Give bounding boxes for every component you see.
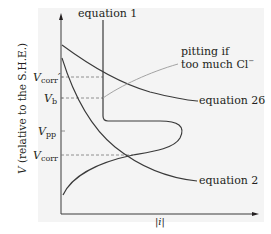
plot-svg bbox=[0, 0, 271, 234]
vcorr-subscript: corr bbox=[41, 154, 58, 163]
vb-label: Vb bbox=[44, 93, 57, 106]
vcorr-symbol: V bbox=[33, 149, 41, 162]
vcorr-prime-label: Vcorr′ bbox=[33, 72, 60, 85]
x-axis-arrow-icon bbox=[252, 212, 259, 216]
y-axis-label-symbol: V bbox=[16, 166, 28, 174]
vcorr-prime-mark: ′ bbox=[58, 71, 61, 84]
equation-2-label: equation 2 bbox=[199, 175, 258, 186]
equation-1-curve bbox=[63, 20, 182, 195]
vpp-symbol: V bbox=[38, 125, 46, 138]
corrosion-potential-diagram: V (relative to the S.H.E.) Vcorr′ Vb Vpp… bbox=[0, 0, 271, 234]
y-axis-label-text: (relative to the S.H.E.) bbox=[16, 43, 28, 167]
vpp-label: Vpp bbox=[38, 126, 56, 139]
y-axis-arrow-icon bbox=[59, 13, 63, 20]
pitting-annotation-line2: too much Cl− bbox=[181, 58, 254, 70]
equation-2-curve bbox=[62, 58, 197, 181]
pitting-annotation-line1: pitting if bbox=[181, 46, 229, 57]
vb-symbol: V bbox=[44, 92, 52, 105]
equation-26-curve bbox=[62, 45, 197, 101]
pitting-annotation-text: too much Cl bbox=[181, 58, 248, 71]
vb-subscript: b bbox=[52, 97, 57, 106]
chloride-charge: − bbox=[248, 57, 254, 65]
vcorr-prime-subscript: corr bbox=[41, 76, 58, 85]
vcorr-prime-symbol: V bbox=[33, 71, 41, 84]
x-axis-label: |i| bbox=[155, 217, 165, 227]
equation-1-label: equation 1 bbox=[78, 8, 137, 19]
vpp-subscript: pp bbox=[46, 130, 56, 139]
vcorr-label: Vcorr bbox=[33, 150, 58, 163]
x-axis-label-text: |i| bbox=[155, 216, 165, 227]
pitting-line bbox=[103, 64, 178, 98]
equation-26-label: equation 26 bbox=[199, 95, 265, 106]
y-axis-label: V (relative to the S.H.E.) bbox=[16, 54, 28, 174]
